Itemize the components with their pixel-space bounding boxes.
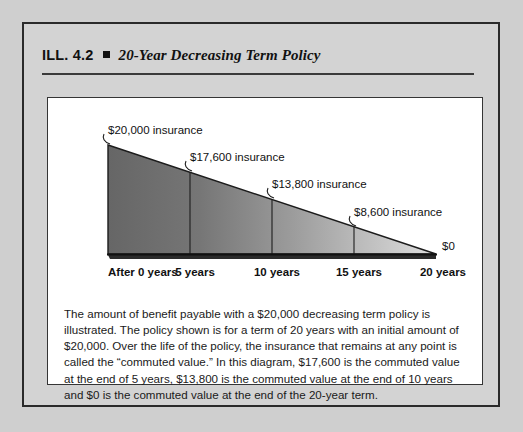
- chart-svg: $20,000 insurance $17,600 insurance $13,…: [48, 98, 484, 283]
- value-label-13800: $13,800 insurance: [272, 178, 367, 190]
- card-header: ILL. 4.2 20-Year Decreasing Term Policy: [42, 38, 474, 72]
- page-title: 20-Year Decreasing Term Policy: [119, 47, 321, 64]
- x-axis-label-0: After 0 years: [108, 266, 178, 278]
- header-divider: [42, 73, 474, 75]
- illustration-number: ILL. 4.2: [42, 47, 94, 63]
- value-label-20000: $20,000 insurance: [108, 124, 203, 136]
- x-axis-label-5: 5 years: [175, 266, 215, 278]
- illustration-card: ILL. 4.2 20-Year Decreasing Term Policy: [22, 22, 500, 407]
- square-bullet-icon: [103, 51, 110, 58]
- description-paragraph: The amount of benefit payable with a $20…: [64, 306, 468, 404]
- x-axis-label-10: 10 years: [254, 266, 300, 278]
- value-label-0: $0: [442, 240, 455, 252]
- decreasing-term-chart: $20,000 insurance $17,600 insurance $13,…: [48, 98, 484, 283]
- value-label-17600: $17,600 insurance: [190, 151, 285, 163]
- baseline-shadow: [108, 255, 436, 259]
- content-panel: $20,000 insurance $17,600 insurance $13,…: [47, 97, 483, 385]
- value-label-8600: $8,600 insurance: [354, 206, 442, 218]
- x-axis-label-15: 15 years: [336, 266, 382, 278]
- x-axis-label-20: 20 years: [420, 266, 466, 278]
